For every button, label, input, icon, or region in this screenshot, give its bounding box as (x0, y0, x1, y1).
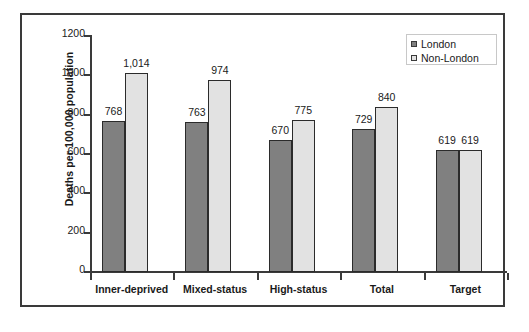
y-axis-tick-label: 1000 (62, 66, 85, 78)
bar-value-label: 619 (461, 134, 479, 146)
x-axis-tick-mark (424, 273, 426, 280)
legend-item-non-london: Non-London (411, 51, 479, 64)
bar-london (269, 140, 292, 272)
bar-london (352, 129, 375, 272)
y-axis-tick-label: 800 (67, 106, 85, 118)
bar-value-label: 775 (295, 104, 313, 116)
chart-figure-frame: Deaths per 100,000 population 1200100080… (20, 13, 505, 307)
bar-london (102, 121, 125, 272)
bar-value-label: 619 (438, 134, 456, 146)
legend-label-london: London (421, 38, 456, 50)
y-axis-tick-mark (84, 153, 92, 155)
bar-non-london (292, 120, 315, 272)
legend-label-non-london: Non-London (421, 52, 479, 64)
y-axis-tick-label: 0 (79, 263, 85, 275)
x-axis-category-label: Target (450, 283, 481, 295)
y-axis-tick-label: 200 (67, 224, 85, 236)
legend-item-london: London (411, 37, 456, 50)
x-axis-tick-mark (340, 273, 342, 280)
x-axis-category-label: Inner-deprived (95, 283, 168, 295)
bar-value-label: 670 (272, 124, 290, 136)
y-axis-tick-mark (84, 232, 92, 234)
y-axis-tick-mark (84, 35, 92, 37)
y-axis-tick-mark (84, 114, 92, 116)
y-axis-title: Deaths per 100,000 population (63, 24, 75, 234)
bar-non-london (208, 80, 231, 272)
bar-non-london (459, 150, 482, 272)
bar-london (436, 150, 459, 272)
x-axis-tick-mark (173, 273, 175, 280)
bar-value-label: 768 (105, 105, 123, 117)
chart-legend: London Non-London (406, 34, 497, 65)
bar-value-label: 1,014 (123, 57, 149, 69)
x-axis-tick-mark (90, 273, 92, 280)
x-axis-tick-mark (507, 273, 509, 280)
y-axis-tick-mark (84, 74, 92, 76)
bar-value-label: 840 (378, 91, 396, 103)
x-axis-category-label: High-status (270, 283, 328, 295)
bar-value-label: 729 (355, 113, 373, 125)
bar-non-london (375, 107, 398, 272)
bar-value-label: 763 (188, 106, 206, 118)
y-axis-tick-mark (84, 192, 92, 194)
legend-swatch-non-london-icon (411, 55, 417, 61)
bar-non-london (125, 73, 148, 272)
x-axis-category-label: Total (370, 283, 394, 295)
x-axis-category-label: Mixed-status (183, 283, 247, 295)
x-axis-tick-mark (257, 273, 259, 280)
bar-london (185, 122, 208, 272)
plot-area: 120010008006004002000 Inner-deprivedMixe… (90, 35, 507, 272)
legend-swatch-london-icon (411, 41, 417, 47)
bar-value-label: 974 (211, 64, 229, 76)
y-axis-tick-label: 600 (67, 145, 85, 157)
y-axis-tick-label: 400 (67, 184, 85, 196)
y-axis-tick-label: 1200 (62, 27, 85, 39)
